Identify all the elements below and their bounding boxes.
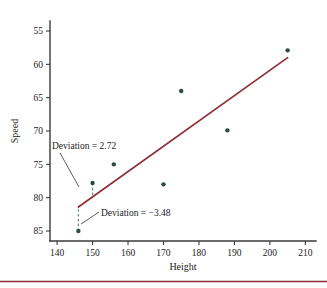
y-tick-label-65: 75 (34, 160, 44, 170)
y-tick-label-70: 70 (34, 126, 44, 136)
x-axis-title: Height (169, 261, 196, 272)
data-point-3 (112, 162, 116, 166)
x-tick-label-140: 140 (50, 248, 65, 258)
x-tick-label-210: 210 (298, 248, 313, 258)
x-tick-label-200: 200 (263, 248, 278, 258)
x-tick-label-170: 170 (156, 248, 171, 258)
y-tick-label-80: 60 (34, 60, 44, 70)
annotation-deviation-negative: Deviation = −3.48 (101, 208, 171, 218)
y-tick-label-60: 80 (34, 193, 44, 203)
y-axis-title: Speed (9, 119, 20, 143)
y-tick-label-75: 65 (34, 93, 44, 103)
data-point-5 (179, 89, 183, 93)
annotation-deviation-positive: Deviation = 2.72 (52, 141, 116, 151)
scatter-plot-figure: 85807570656055 140150160170180190200210 … (0, 0, 327, 288)
data-point-2 (90, 181, 94, 185)
y-tick-label-55: 85 (34, 226, 44, 236)
data-point-6 (225, 128, 229, 132)
data-point-1 (76, 229, 80, 233)
chart-canvas: 85807570656055 140150160170180190200210 … (0, 0, 327, 288)
x-tick-label-160: 160 (121, 248, 136, 258)
data-point-4 (161, 182, 165, 186)
y-tick-label-85: 55 (34, 26, 44, 36)
x-tick-label-180: 180 (192, 248, 207, 258)
data-point-7 (285, 48, 289, 52)
x-tick-label-190: 190 (227, 248, 242, 258)
x-tick-label-150: 150 (85, 248, 100, 258)
